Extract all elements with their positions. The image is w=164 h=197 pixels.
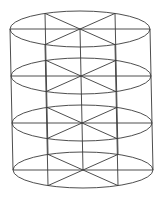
central-axis: [81, 76, 82, 123]
vertical-edge: [10, 29, 11, 76]
vertical-edges: [10, 13, 153, 185]
spoke-line: [47, 107, 82, 123]
vertical-edge: [11, 76, 12, 123]
central-axis: [82, 123, 83, 170]
vertical-edge: [151, 76, 152, 123]
vertical-edge: [150, 29, 151, 76]
spoke-line: [82, 123, 117, 139]
spoke-line: [81, 60, 116, 76]
wireframe-cylinder-figure: wireframe-cylinder: [0, 0, 164, 197]
cylinder-wireframe-svg: [0, 0, 164, 197]
spoke-line: [82, 107, 117, 123]
spoke-line: [46, 76, 81, 92]
vertical-edge: [152, 123, 153, 170]
spoke-line: [48, 170, 83, 186]
vertical-edge: [12, 123, 13, 170]
spoke-line: [80, 13, 115, 29]
spoke-line: [81, 76, 116, 92]
spoke-line: [83, 170, 118, 186]
spoke-line: [48, 154, 83, 170]
central-axis: [80, 29, 81, 76]
spoke-line: [45, 13, 80, 29]
spoke-line: [83, 154, 118, 170]
spoke-line: [45, 29, 80, 45]
spoke-line: [47, 123, 82, 139]
spoke-line: [80, 29, 115, 45]
spoke-line: [46, 60, 81, 76]
